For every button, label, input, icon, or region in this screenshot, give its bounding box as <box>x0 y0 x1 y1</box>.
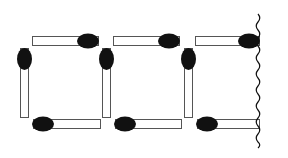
match-bottom-2 <box>114 117 182 132</box>
match-head-icon <box>114 117 136 132</box>
match-left-2 <box>99 48 114 118</box>
match-bottom-1 <box>32 117 101 132</box>
match-head-icon <box>158 34 180 49</box>
match-top-2 <box>114 34 181 49</box>
match-left-3 <box>181 48 196 118</box>
match-head-icon <box>99 48 114 70</box>
match-head-icon <box>181 48 196 70</box>
matchstick-diagram <box>0 0 288 158</box>
match-head-icon <box>77 34 99 49</box>
matches-group <box>17 34 260 132</box>
match-top-1 <box>33 34 100 49</box>
match-head-icon <box>196 117 218 132</box>
match-bottom-3 <box>196 117 260 132</box>
match-head-icon <box>17 48 32 70</box>
match-head-icon <box>32 117 54 132</box>
match-top-3 <box>196 34 261 49</box>
match-left-1 <box>17 48 32 118</box>
